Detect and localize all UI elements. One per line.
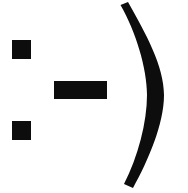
eye-top-square <box>12 40 31 59</box>
eye-bottom-square <box>12 121 31 140</box>
emoticon-canvas: Sideways smiley face emoticon drawn as t… <box>0 0 188 193</box>
emoticon-glyph: Sideways smiley face emoticon drawn as t… <box>0 0 188 193</box>
mouth-closing-parenthesis-curve <box>121 2 165 188</box>
nose-dash-bar <box>54 81 107 99</box>
